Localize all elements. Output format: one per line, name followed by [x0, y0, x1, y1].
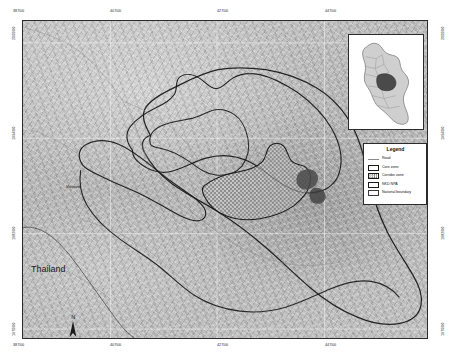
corridor-zone: [203, 143, 311, 220]
graticule-tick-right-1: 1994000: [442, 127, 446, 140]
legend-label-core-zone: Core zone: [382, 166, 399, 170]
inset-locator-map[interactable]: [348, 34, 424, 130]
graticule-tick-top-0: 387000: [13, 10, 24, 14]
map-figure: 387000 407000 427000 447000 387000 40700…: [0, 0, 464, 361]
legend-item-nkd-npa[interactable]: NKD NPA: [368, 181, 423, 189]
graticule-tick-right-3: 1970000: [442, 323, 446, 336]
legend-title: Legend: [368, 147, 423, 152]
inset-map-svg: [349, 35, 423, 129]
nkd-npa-swatch-icon: [368, 182, 379, 188]
graticule-tick-left-2: 1982000: [13, 227, 17, 240]
road-line-icon: [368, 159, 379, 160]
legend-item-national-boundary[interactable]: National boundary: [368, 189, 423, 197]
graticule-tick-left-1: 1994000: [13, 127, 17, 140]
graticule-tick-bottom-3: 447000: [325, 344, 336, 348]
legend-item-core-zone[interactable]: Core zone: [368, 164, 423, 172]
corridor-zone-swatch-icon: [368, 173, 379, 179]
legend-label-nkd-npa: NKD NPA: [382, 183, 398, 187]
legend-label-national-boundary: National boundary: [382, 191, 411, 195]
graticule-tick-bottom-0: 387000: [13, 344, 24, 348]
map-label-thailand: Thailand: [31, 265, 66, 274]
graticule-tick-left-3: 1970000: [13, 323, 17, 336]
national-boundary-swatch-icon: [368, 190, 379, 196]
map-label-vientiane: Vientiane: [66, 186, 81, 190]
core-zone-swatch-icon: [368, 165, 379, 171]
inset-country-outline: [363, 43, 409, 124]
graticule-tick-top-3: 447000: [325, 10, 336, 14]
legend-label-road: Road: [382, 157, 391, 161]
legend-panel[interactable]: Legend Road Core zone Corridor zone NKD …: [363, 143, 427, 205]
road-network: [23, 27, 399, 299]
legend-item-road[interactable]: Road: [368, 155, 423, 163]
graticule-tick-right-2: 1982000: [442, 227, 446, 240]
north-arrow: N: [65, 313, 81, 339]
graticule-tick-bottom-2: 427000: [217, 344, 228, 348]
graticule-tick-top-2: 427000: [217, 10, 228, 14]
graticule-tick-top-1: 407000: [110, 10, 121, 14]
graticule-tick-right-0: 2000000: [442, 27, 446, 40]
inset-highlight-province: [377, 74, 396, 91]
north-arrow-label: N: [71, 314, 75, 320]
legend-item-corridor-zone[interactable]: Corridor zone: [368, 172, 423, 180]
legend-label-corridor-zone: Corridor zone: [382, 174, 404, 178]
graticule-tick-left-0: 2000000: [13, 27, 17, 40]
western-lobe: [79, 141, 206, 221]
graticule-tick-bottom-1: 407000: [110, 344, 121, 348]
core-zone-inner: [150, 110, 249, 176]
